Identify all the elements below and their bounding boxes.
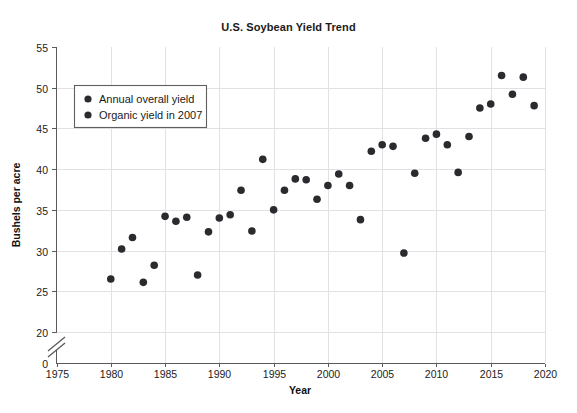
data-point — [400, 249, 408, 257]
data-point — [205, 228, 213, 236]
data-point — [248, 227, 256, 235]
legend-label-0: Annual overall yield — [99, 93, 194, 105]
data-point — [237, 187, 245, 195]
data-point — [183, 213, 191, 221]
data-point — [129, 234, 137, 242]
data-point — [498, 72, 506, 80]
data-point — [519, 73, 527, 81]
x-tick-label: 2010 — [425, 368, 449, 380]
data-point — [259, 156, 267, 164]
y-tick-label: 20 — [36, 327, 48, 339]
y-tick-label: 50 — [36, 83, 48, 95]
data-point — [530, 102, 538, 110]
y-tick-label: 45 — [36, 123, 48, 135]
chart-figure: U.S. Soybean Yield Trend 197519801985199… — [0, 0, 577, 413]
x-axis-ticks: 1975198019851990199520002005201020152020 — [46, 364, 558, 381]
x-axis-title: Year — [289, 384, 311, 396]
data-point — [281, 187, 289, 195]
x-tick-label: 2015 — [480, 368, 504, 380]
data-point — [107, 275, 115, 283]
data-point — [422, 134, 430, 142]
data-point — [194, 271, 202, 279]
data-point — [302, 176, 310, 184]
data-point — [324, 182, 332, 190]
data-point — [357, 216, 365, 224]
legend-label-1: Organic yield in 2007 — [99, 109, 202, 121]
data-point — [270, 206, 278, 214]
x-tick-label: 1990 — [208, 368, 232, 380]
data-point — [454, 169, 462, 177]
x-tick-label: 1985 — [154, 368, 178, 380]
data-point — [292, 175, 300, 183]
y-tick-label: 25 — [36, 286, 48, 298]
data-point — [509, 90, 517, 98]
x-tick-label: 2000 — [317, 368, 341, 380]
data-point — [378, 141, 386, 149]
data-point — [487, 100, 495, 108]
y-tick-label: 30 — [36, 246, 48, 258]
y-tick-label: 35 — [36, 205, 48, 217]
legend-box — [75, 86, 207, 128]
legend-marker-1 — [84, 111, 91, 118]
data-point — [444, 141, 452, 149]
data-point — [140, 279, 148, 287]
y-tick-label: 40 — [36, 164, 48, 176]
x-tick-label: 1995 — [263, 368, 287, 380]
data-point — [216, 214, 224, 222]
data-point — [411, 169, 419, 177]
data-point — [226, 211, 234, 219]
data-point — [368, 147, 376, 155]
y-tick-label: 55 — [36, 42, 48, 54]
data-point — [346, 182, 354, 190]
data-point — [161, 213, 169, 221]
data-point — [389, 143, 397, 151]
data-point — [335, 170, 343, 178]
y-tick-label: 0 — [42, 358, 48, 370]
y-axis-ticks: 02025303540455055 — [36, 42, 56, 370]
x-tick-label: 1975 — [46, 368, 70, 380]
data-point — [172, 217, 180, 225]
data-point — [313, 195, 321, 203]
data-point — [118, 245, 126, 253]
y-axis-title: Bushels per acre — [10, 163, 22, 248]
scatter-plot: 1975198019851990199520002005201020152020… — [0, 0, 577, 413]
data-point — [465, 133, 473, 141]
legend: Annual overall yield Organic yield in 20… — [75, 86, 207, 128]
x-tick-label: 2005 — [371, 368, 395, 380]
x-tick-label: 2020 — [534, 368, 558, 380]
data-point — [476, 104, 484, 112]
x-tick-label: 1980 — [100, 368, 124, 380]
data-point — [433, 130, 441, 138]
axis-break-icon — [48, 337, 65, 351]
legend-marker-0 — [84, 95, 91, 102]
data-point — [150, 261, 158, 269]
